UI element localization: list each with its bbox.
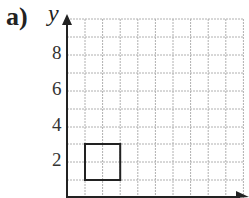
coordinate-grid-figure: a) y 8 6 4 2 [0,0,249,198]
x-axis-arrow-icon [236,191,249,198]
grid-svg [0,0,249,198]
grid-lines [67,19,243,198]
